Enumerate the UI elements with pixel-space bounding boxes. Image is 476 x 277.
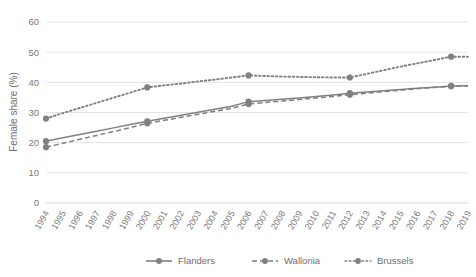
y-tick-10: 10 — [28, 167, 39, 178]
marker-brussels-2018 — [448, 54, 454, 60]
legend-label-brussels: Brussels — [377, 255, 414, 266]
chart-canvas: 0102030405060 19941995199619971998199920… — [0, 0, 476, 277]
line-chart: 0102030405060 19941995199619971998199920… — [0, 0, 476, 277]
y-tick-60: 60 — [28, 16, 39, 27]
marker-brussels-2012 — [347, 74, 353, 80]
chart-background — [0, 0, 476, 277]
y-tick-20: 20 — [28, 137, 39, 148]
y-tick-50: 50 — [28, 47, 39, 58]
legend-label-flanders: Flanders — [178, 255, 215, 266]
legend-marker-brussels — [355, 258, 361, 264]
marker-brussels-2006 — [245, 72, 251, 78]
marker-wallonia-2006 — [245, 101, 251, 107]
legend-label-wallonia: Wallonia — [284, 255, 321, 266]
marker-brussels-1994 — [43, 115, 49, 121]
legend-marker-wallonia — [262, 258, 268, 264]
y-axis-title: Female share (%) — [8, 72, 19, 151]
y-tick-40: 40 — [28, 77, 39, 88]
y-tick-0: 0 — [34, 197, 39, 208]
marker-brussels-2000 — [144, 84, 150, 90]
y-tick-30: 30 — [28, 107, 39, 118]
marker-wallonia-1994 — [43, 144, 49, 150]
marker-wallonia-2018 — [448, 83, 454, 89]
marker-flanders-1994 — [43, 138, 49, 144]
marker-wallonia-2012 — [347, 92, 353, 98]
marker-wallonia-2000 — [144, 120, 150, 126]
legend-marker-flanders — [156, 258, 162, 264]
